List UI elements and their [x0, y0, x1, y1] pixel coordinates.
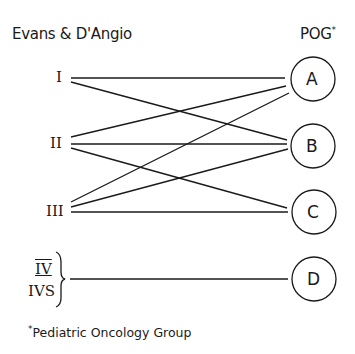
- stage-label-II: II: [50, 134, 62, 152]
- stage-label-IVS: IVS: [28, 282, 55, 300]
- brace: [56, 252, 65, 307]
- group-label-D: D: [307, 269, 320, 289]
- group-label-A: A: [306, 69, 317, 89]
- right-title-text: POG: [300, 25, 332, 43]
- stage-label-IV: IV: [35, 260, 52, 278]
- stage-label-I: I: [56, 68, 62, 86]
- right-title: POG*: [300, 25, 336, 43]
- connector-II-A: [71, 86, 286, 137]
- asterisk-mark: *: [332, 25, 336, 35]
- group-label-C: C: [307, 202, 319, 222]
- footnote: *Pediatric Oncology Group: [28, 324, 191, 340]
- staging-diagram: [0, 0, 355, 354]
- group-label-B: B: [306, 136, 317, 156]
- left-title: Evans & D'Angio: [12, 25, 132, 43]
- footnote-text: Pediatric Oncology Group: [33, 325, 192, 340]
- stage-label-III: III: [46, 202, 64, 220]
- connector-III-A: [71, 93, 289, 202]
